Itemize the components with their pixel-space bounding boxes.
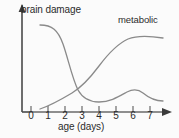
x-tick-label-6: 6	[127, 110, 139, 121]
x-tick-label-2: 2	[59, 110, 71, 121]
x-tick-label-5: 5	[110, 110, 122, 121]
y-axis	[19, 4, 30, 112]
series-curve-metabolic	[40, 36, 163, 109]
annotation-brain-damage: brain damage	[21, 4, 81, 15]
x-tick-label-3: 3	[76, 110, 88, 121]
x-axis-title: age (days)	[58, 121, 104, 132]
x-tick-label-7: 7	[144, 110, 156, 121]
x-axis-arrow-icon	[162, 108, 172, 116]
annotation-metabolic: metabolic	[118, 14, 158, 25]
chart-figure: brain damage metabolic age (days) 0 1 2 …	[0, 0, 179, 138]
x-tick-label-0: 0	[25, 110, 37, 121]
x-tick-label-1: 1	[42, 110, 54, 121]
x-tick-label-4: 4	[93, 110, 105, 121]
